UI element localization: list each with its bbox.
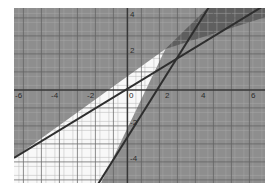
x-tick-label-6: 6 bbox=[251, 92, 255, 100]
y-tick-label-4: 4 bbox=[130, 11, 134, 19]
x-tick-label--4: -4 bbox=[51, 92, 58, 100]
y-tick-label--4: -4 bbox=[130, 155, 137, 163]
x-tick-label-2: 2 bbox=[165, 92, 169, 100]
y-tick-label--2: -2 bbox=[130, 119, 137, 127]
x-tick-label--2: -2 bbox=[87, 92, 94, 100]
inequality-graph-figure: -6 -4 -2 0 2 4 6 4 2 -2 -4 bbox=[0, 0, 273, 188]
x-tick-label-4: 4 bbox=[201, 92, 205, 100]
y-tick-label-2: 2 bbox=[130, 47, 134, 55]
x-tick-label--6: -6 bbox=[15, 92, 22, 100]
x-tick-label-0: 0 bbox=[129, 92, 133, 100]
